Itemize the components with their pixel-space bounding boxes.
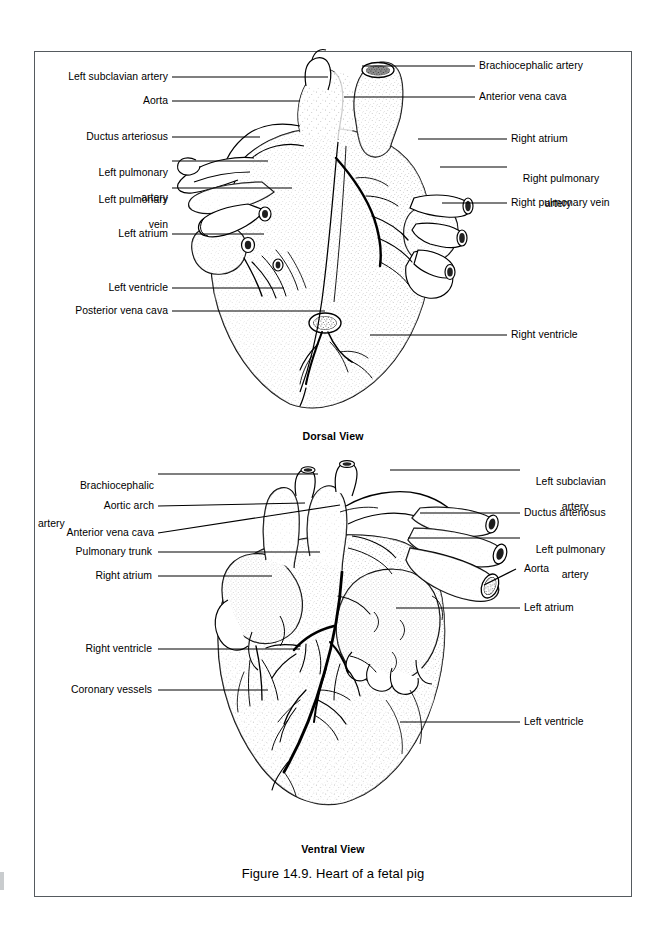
label-left-atrium-ventral: Left atrium xyxy=(524,602,644,614)
label-line-1: Brachiocephalic xyxy=(80,480,154,491)
label-aorta-dorsal: Aorta xyxy=(46,95,168,107)
label-right-ventricle-dorsal: Right ventricle xyxy=(511,329,633,341)
figure-caption: Figure 14.9. Heart of a fetal pig xyxy=(173,866,493,881)
page-edge-artifact xyxy=(0,872,4,890)
label-anterior-vena-cava-dorsal: Anterior vena cava xyxy=(479,91,629,103)
label-right-atrium-ventral: Right atrium xyxy=(30,570,152,582)
label-aortic-arch-ventral: Aortic arch xyxy=(30,500,154,512)
dorsal-view-caption: Dorsal View xyxy=(253,430,413,442)
ventral-view-caption: Ventral View xyxy=(253,843,413,855)
label-ductus-arteriosus-ventral: Ductus arteriosus xyxy=(524,507,644,519)
label-line-1: Left pulmonary xyxy=(536,544,605,555)
label-line-1: Left subclavian xyxy=(536,476,606,487)
label-line-1: Left pulmonary xyxy=(99,167,168,178)
label-right-ventricle-ventral: Right ventricle xyxy=(30,643,152,655)
label-left-ventricle-dorsal: Left ventricle xyxy=(46,282,168,294)
label-posterior-vena-cava-dorsal: Posterior vena cava xyxy=(40,305,168,317)
label-anterior-vena-cava-ventral: Anterior vena cava xyxy=(24,527,154,539)
label-coronary-vessels-ventral: Coronary vessels xyxy=(30,684,152,696)
figure-page: Left subclavian artery Aorta Ductus arte… xyxy=(0,0,665,935)
label-right-pulmonary-artery-dorsal: Right pulmonary artery xyxy=(511,161,633,223)
label-right-atrium-dorsal: Right atrium xyxy=(511,133,633,145)
label-line-1: Left pulmonary xyxy=(99,194,168,205)
label-brachiocephalic-artery-dorsal: Brachiocephalic artery xyxy=(479,60,629,72)
label-left-atrium-dorsal: Left atrium xyxy=(46,228,168,240)
label-line-1: Right pulmonary xyxy=(523,173,599,184)
label-right-pulmonary-vein-dorsal: Right pulmonary vein xyxy=(511,197,641,209)
label-ductus-arteriosus-dorsal: Ductus arteriosus xyxy=(46,131,168,143)
label-aorta-ventral: Aorta xyxy=(524,563,644,575)
label-left-ventricle-ventral: Left ventricle xyxy=(524,716,644,728)
label-pulmonary-trunk-ventral: Pulmonary trunk xyxy=(30,546,152,558)
label-left-subclavian-artery-dorsal: Left subclavian artery xyxy=(46,71,168,83)
